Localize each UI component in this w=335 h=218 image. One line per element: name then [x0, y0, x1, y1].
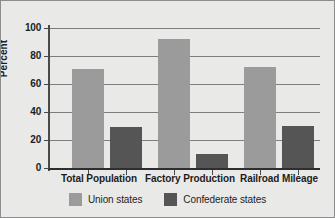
legend-item-union: Union states: [69, 193, 142, 206]
chart-legend: Union states Confederate states: [1, 193, 334, 206]
x-label-total-population: Total Population: [51, 173, 147, 184]
y-tickmark-100: [44, 28, 49, 29]
legend-swatch-confederate-icon: [164, 193, 177, 206]
legend-swatch-union-icon: [69, 193, 82, 206]
bar-union-factory-production: [158, 39, 190, 168]
y-tickmark-0: [44, 168, 49, 169]
bar-union-total-population: [72, 69, 104, 168]
bar-confederate-railroad-mileage: [282, 126, 314, 168]
y-tick-100: 100: [25, 23, 41, 33]
chart-figure: Percent 100 80 60 40 20 0: [0, 0, 335, 218]
y-axis-line: [48, 25, 50, 171]
y-tickmark-60: [44, 84, 49, 85]
y-tick-60: 60: [30, 79, 41, 89]
plot-area: [48, 28, 320, 168]
bar-union-railroad-mileage: [244, 67, 276, 168]
y-tickmark-40: [44, 112, 49, 113]
legend-item-confederate: Confederate states: [164, 193, 266, 206]
bar-confederate-total-population: [110, 127, 142, 168]
y-tickmark-20: [44, 140, 49, 141]
y-tick-80: 80: [30, 51, 41, 61]
y-axis-label: Percent: [0, 40, 9, 77]
legend-label-confederate: Confederate states: [183, 194, 266, 205]
x-label-factory-production: Factory Production: [137, 173, 243, 184]
x-label-railroad-mileage: Railroad Mileage: [229, 173, 329, 184]
y-tick-0: 0: [36, 163, 41, 173]
y-tickmark-80: [44, 56, 49, 57]
legend-label-union: Union states: [88, 194, 142, 205]
gridline-100: [50, 28, 320, 29]
y-axis-tick-labels: 100 80 60 40 20 0: [9, 28, 41, 168]
bar-confederate-factory-production: [196, 154, 228, 168]
y-tick-40: 40: [30, 107, 41, 117]
y-tick-20: 20: [30, 135, 41, 145]
